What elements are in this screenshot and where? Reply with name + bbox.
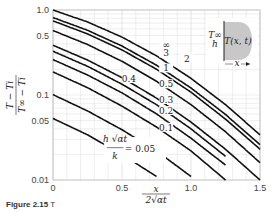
y-label-numerator: T − Ti: [5, 81, 15, 109]
inset-diagram: T∞hT(x, t)x: [206, 18, 258, 68]
curve-label: 0.3: [159, 95, 174, 105]
curve-label: 0.1: [159, 123, 173, 133]
y-tick-label: 1.0: [36, 5, 49, 15]
y-tick-label: 0.01: [31, 175, 49, 185]
x-tick-label: 1.0: [185, 183, 198, 193]
x-tick-label: 0.5: [116, 183, 129, 193]
curve-label: 0.4: [122, 74, 137, 84]
parameter-annotation: h √αtk= 0.05: [103, 134, 166, 163]
y-tick-label: 0.5: [36, 31, 49, 41]
curve-label: 2: [184, 54, 190, 64]
inset-body-label: T(x, t): [224, 36, 252, 46]
figure-caption: Figure 2.15 T: [6, 200, 55, 209]
x-tick-label: 0: [50, 183, 55, 193]
y-axis-ticks: 1.00.50.10.050.01: [31, 5, 49, 185]
y-label-denominator: T∞ − Ti: [17, 77, 27, 113]
y-tick-label: 0.1: [36, 90, 49, 100]
param-value: = 0.05: [125, 144, 156, 154]
inset-h: h: [212, 39, 218, 49]
param-denominator: k: [112, 151, 117, 161]
y-tick-label: 0.05: [31, 116, 49, 126]
y-axis-label: T − TiT∞ − Ti: [5, 75, 27, 115]
semi-infinite-solid-chart: 1.00.50.10.050.0100.51.01.5∞3210.40.50.3…: [0, 0, 274, 212]
param-numerator: h √αt: [103, 134, 127, 144]
figure-number: Figure 2.15: [6, 200, 48, 209]
curve-label: 0.5: [159, 79, 174, 89]
curve-label: 0.2: [159, 106, 173, 116]
x-label-numerator: x: [153, 184, 158, 194]
x-axis-label: x2√αt: [142, 184, 170, 205]
inset-x-label: x: [234, 58, 239, 68]
curve-label: 3: [163, 48, 169, 58]
x-label-denominator: 2√αt: [144, 195, 167, 205]
curve-label: 1: [163, 63, 169, 73]
figure-caption-text: T: [50, 200, 55, 209]
x-tick-label: 1.5: [254, 183, 267, 193]
